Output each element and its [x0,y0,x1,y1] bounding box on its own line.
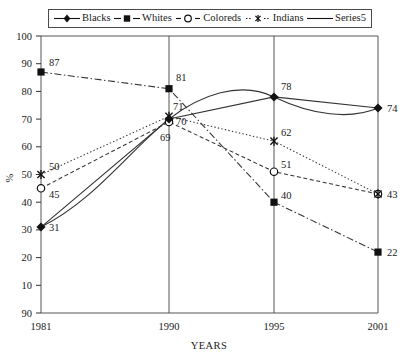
data-label: 71 [173,101,184,112]
data-label: 81 [176,72,187,83]
y-tick-label: 100 [16,31,32,42]
data-label: 22 [387,247,398,258]
data-label: 40 [281,190,292,201]
series-line-indians [41,116,378,194]
y-axis-tick-labels: 100 90 80 70 60 50 40 30 20 10 90 [16,31,32,319]
data-label: 70 [176,116,187,127]
x-axis-tick-labels: 1981 1990 1995 2001 [31,321,389,332]
data-label: 62 [281,127,292,138]
data-label: 51 [281,159,292,170]
x-tick-label: 1995 [264,321,285,332]
x-tick-label: 1981 [31,321,52,332]
series-line-whites [41,72,378,252]
y-tick-label: 30 [22,224,33,235]
data-label: 74 [387,103,398,114]
series-markers-coloreds [37,118,381,197]
y-tick-label: 80 [22,86,33,97]
data-label: 87 [49,57,60,68]
data-label: 31 [49,222,60,233]
y-tick-label: 90 [22,58,33,69]
data-label: 78 [281,81,292,92]
y-tick-label: 60 [22,141,33,152]
y-axis-title: % [4,173,15,182]
data-label: 45 [49,189,60,200]
y-tick-label: 70 [22,114,33,125]
series-line-blacks [41,97,378,227]
x-tick-label: 1990 [159,321,180,332]
data-label: 50 [49,161,60,172]
series-markers-indians [37,112,381,199]
chart-plot-area: 100 90 80 70 60 50 40 30 20 10 90 % 1981… [0,0,407,358]
data-label: 69 [160,132,171,143]
x-tick-label: 2001 [368,321,389,332]
chart-root: Blacks Whites Coloreds [0,0,407,358]
series-line-coloreds [41,122,378,194]
y-tick-label: 40 [22,197,33,208]
x-axis-title: YEARS [191,340,227,351]
y-tick-label: 10 [22,280,33,291]
chart-gridlines [41,36,378,313]
data-labels-coloreds: 45 69 51 43 [49,132,398,200]
data-label: 43 [387,189,398,200]
y-tick-label: 20 [22,252,33,263]
y-tick-label: 50 [22,169,33,180]
y-tick-label: 90 [22,308,33,319]
